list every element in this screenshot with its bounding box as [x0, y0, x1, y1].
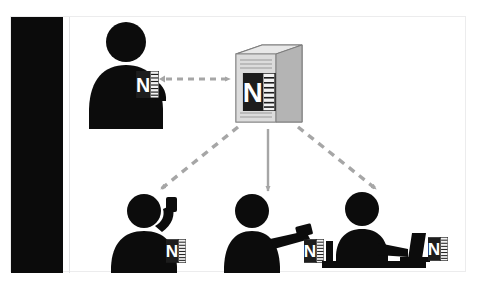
- tablet-icon: [295, 223, 313, 238]
- author-person[interactable]: [89, 22, 166, 129]
- connector-server-reader-laptop: [298, 127, 376, 189]
- phone-reader-onenote-icon: [166, 239, 186, 263]
- laptop-reader-onenote-icon: [428, 237, 448, 261]
- tablet-reader-head: [235, 194, 269, 228]
- tablet-reader-onenote-icon: [304, 239, 324, 263]
- laptop-base: [400, 257, 430, 262]
- phone-reader-head: [127, 194, 161, 228]
- reader-on-phone[interactable]: [111, 194, 186, 273]
- laptop-screen: [408, 233, 426, 259]
- connector-author-server: [159, 76, 230, 83]
- server-side-panel: [276, 45, 302, 122]
- diagram-canvas: N: [70, 17, 465, 271]
- left-dark-band: [11, 17, 63, 273]
- reader-on-laptop[interactable]: [322, 192, 448, 268]
- desk-surface: [322, 261, 426, 268]
- diagram-svg: N: [70, 17, 467, 273]
- connector-server-reader-phone: [161, 127, 238, 189]
- desk-leg: [326, 241, 333, 263]
- server-onenote-icon: [243, 73, 275, 111]
- laptop-reader-head: [345, 192, 379, 226]
- diagram-figure: N: [10, 16, 466, 272]
- arrowhead-toward-author: [159, 76, 165, 83]
- notebook-server[interactable]: [236, 45, 302, 122]
- laptop-reader-arm: [378, 243, 408, 257]
- phone-icon: [166, 197, 177, 212]
- reader-on-tablet[interactable]: [224, 194, 324, 273]
- page-root: N: [0, 0, 478, 287]
- author-head: [106, 22, 146, 62]
- tablet-reader-body: [224, 231, 280, 273]
- author-onenote-icon: [136, 71, 159, 98]
